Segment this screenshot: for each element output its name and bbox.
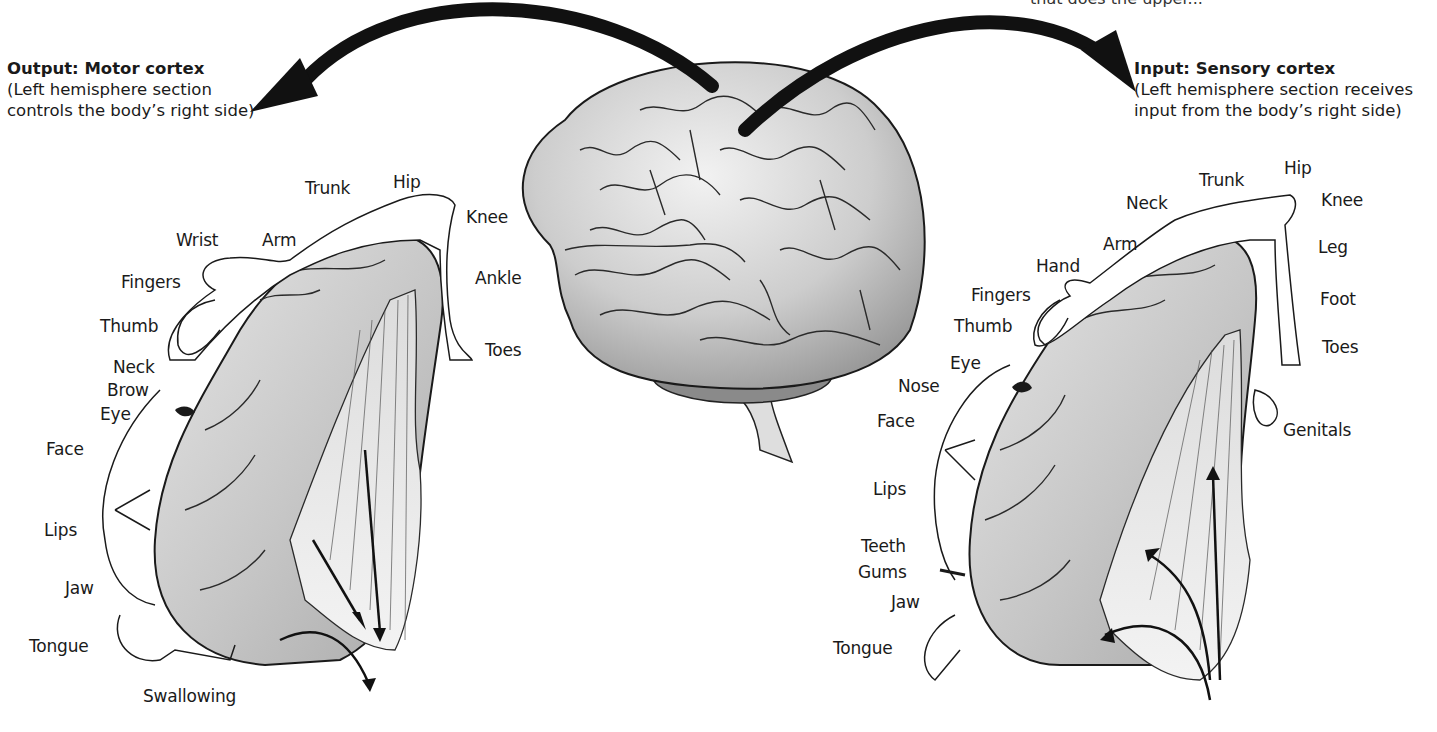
sensory-cortex-heading: Input: Sensory cortex (Left hemisphere s…: [1134, 58, 1413, 121]
motor-label: Trunk: [305, 178, 350, 198]
sensory-label: Jaw: [891, 592, 920, 612]
motor-label: Lips: [44, 520, 77, 540]
sensory-label: Gums: [858, 562, 907, 582]
motor-label: Hip: [393, 172, 421, 192]
motor-cortex-heading: Output: Motor cortex (Left hemisphere se…: [7, 58, 255, 121]
sensory-label: Foot: [1320, 289, 1356, 309]
sensory-label: Arm: [1103, 234, 1137, 254]
sensory-label: Nose: [898, 376, 940, 396]
sensory-label: Leg: [1318, 237, 1348, 257]
motor-label: Arm: [262, 230, 296, 250]
sensory-label: Genitals: [1283, 420, 1351, 440]
motor-label: Ankle: [475, 268, 521, 288]
sensory-cortex-subtitle-line2: input from the body’s right side): [1134, 100, 1413, 121]
motor-label: Neck: [113, 357, 155, 377]
motor-cortex-subtitle-line2: controls the body’s right side): [7, 100, 255, 121]
sensory-label: Trunk: [1199, 170, 1244, 190]
motor-label: Wrist: [176, 230, 218, 250]
sensory-label: Face: [877, 411, 915, 431]
sensory-cortex-subtitle-line1: (Left hemisphere section receives: [1134, 79, 1413, 100]
sensory-genitals-outline: [1253, 390, 1277, 426]
sensory-label: Eye: [950, 353, 981, 373]
sensory-label: Hand: [1036, 256, 1080, 276]
sensory-tongue: [925, 615, 960, 680]
sensory-cortex-title: Input: Sensory cortex: [1134, 58, 1413, 79]
motor-label: Swallowing: [143, 686, 236, 706]
motor-label: Thumb: [100, 316, 158, 336]
motor-cortex-title: Output: Motor cortex: [7, 58, 255, 79]
sensory-label: Lips: [873, 479, 906, 499]
sensory-label: Knee: [1321, 190, 1363, 210]
motor-cortex-subtitle-line1: (Left hemisphere section: [7, 79, 255, 100]
sensory-label: Tongue: [833, 638, 893, 658]
motor-label: Tongue: [29, 636, 89, 656]
central-brain: [523, 62, 925, 462]
motor-label: Eye: [100, 404, 131, 424]
motor-label: Fingers: [121, 272, 181, 292]
motor-label: Brow: [107, 380, 149, 400]
motor-label: Face: [46, 439, 84, 459]
sensory-label: Thumb: [954, 316, 1012, 336]
brainstem: [735, 395, 792, 462]
sensory-label: Hip: [1284, 158, 1312, 178]
motor-cortex-illustration: [103, 195, 472, 692]
sensory-label: Fingers: [971, 285, 1031, 305]
sensory-cortex-illustration: [925, 195, 1300, 700]
motor-label: Knee: [466, 207, 508, 227]
sensory-label: Toes: [1322, 337, 1358, 357]
sensory-label: Teeth: [861, 536, 906, 556]
sensory-label: Neck: [1126, 193, 1168, 213]
motor-label: Toes: [485, 340, 521, 360]
motor-label: Jaw: [65, 578, 94, 598]
cropped-caption-text: that does the upper...: [1030, 0, 1203, 8]
